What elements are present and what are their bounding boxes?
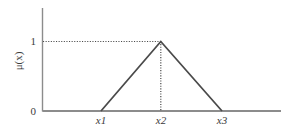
y-tick-label-0: 0 xyxy=(31,106,37,117)
membership-function-plot xyxy=(0,0,291,135)
x-tick-label-x1: x1 xyxy=(96,115,106,126)
y-tick-label-1: 1 xyxy=(31,36,37,47)
y-axis-title: μ(x) xyxy=(13,52,24,71)
figure-container: μ(x) 1 0 x1 x2 x3 xyxy=(0,0,291,135)
x-tick-label-x3: x3 xyxy=(217,115,227,126)
membership-curve xyxy=(101,42,222,112)
x-tick-label-x2: x2 xyxy=(156,115,166,126)
